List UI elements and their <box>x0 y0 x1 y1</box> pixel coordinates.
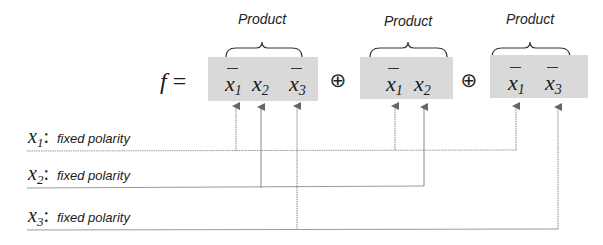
product-term-3 <box>490 55 588 98</box>
term3-var-x1: x1 <box>508 72 525 97</box>
input-label-x3: x3: fixed polarity <box>28 204 130 230</box>
product-label-term1: Product <box>238 11 286 27</box>
complement-bar <box>388 68 399 69</box>
complement-bar <box>510 67 521 68</box>
product-term-2 <box>360 57 453 99</box>
input-label-x2: x2: fixed polarity <box>28 162 130 188</box>
term3-var-x3: x3 <box>545 72 562 97</box>
product-label-term2: Product <box>384 13 432 29</box>
function-symbol: f <box>160 68 167 94</box>
equals-sign: = <box>173 68 187 94</box>
xor-operator-1: ⊕ <box>330 68 347 92</box>
input-var: x3 <box>28 204 43 226</box>
fprm-diagram: Product Product Product f = x1 x2 x3 ⊕ x… <box>0 0 603 245</box>
xor-operator-2: ⊕ <box>461 68 478 92</box>
term1-var-x1: x1 <box>225 73 242 98</box>
term1-var-x2: x2 <box>252 73 269 98</box>
term2-var-x1: x1 <box>386 73 403 98</box>
brace-term1 <box>226 42 302 57</box>
polarity-text: fixed polarity <box>57 131 130 146</box>
input-label-x1: x1: fixed polarity <box>28 125 130 151</box>
complement-bar <box>227 68 238 69</box>
complement-bar <box>547 67 558 68</box>
term2-var-x2: x2 <box>414 73 431 98</box>
term1-var-x3: x3 <box>289 73 306 98</box>
product-label-term3: Product <box>506 11 554 27</box>
polarity-text: fixed polarity <box>57 210 130 225</box>
complement-bar <box>291 68 302 69</box>
function-lhs: f = <box>160 68 186 95</box>
brace-term2 <box>370 42 447 57</box>
input-var: x2 <box>28 162 43 184</box>
polarity-text: fixed polarity <box>57 168 130 183</box>
input-var: x1 <box>28 125 43 147</box>
